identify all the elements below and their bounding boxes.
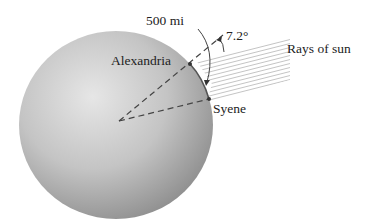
diagram-canvas: 500 mi 7.2° Rays of sun Alexandria Syene xyxy=(0,0,370,220)
angle-label: 7.2° xyxy=(226,29,248,43)
distance-label: 500 mi xyxy=(146,14,184,28)
distance-arrowhead-icon xyxy=(204,80,210,86)
earth-diagram xyxy=(0,0,370,220)
distance-leader-arrow xyxy=(198,29,210,82)
alexandria-label: Alexandria xyxy=(111,54,171,68)
syene-label: Syene xyxy=(213,102,246,116)
angle-arrowhead-icon xyxy=(216,36,222,42)
alexandria-dot xyxy=(188,62,192,66)
syene-dot xyxy=(207,97,211,101)
rays-label: Rays of sun xyxy=(287,42,351,56)
